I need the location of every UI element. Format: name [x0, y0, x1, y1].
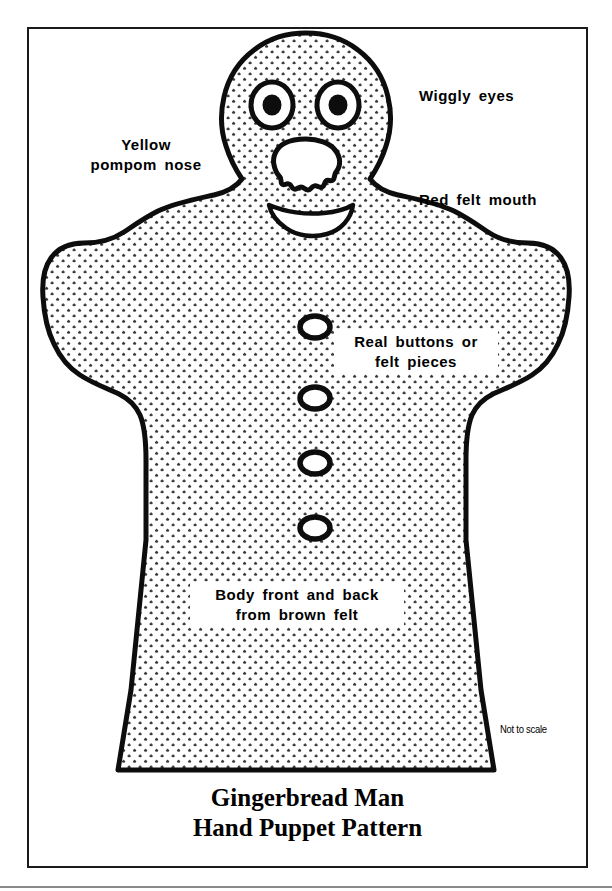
body-shape	[0, 0, 612, 891]
button-2	[300, 387, 330, 409]
title-line-1: Gingerbread Man	[27, 783, 588, 813]
callout-wiggly-eyes: Wiggly eyes	[419, 86, 514, 106]
scan-edge-rule	[0, 886, 612, 888]
pompom-nose	[274, 139, 340, 190]
scale-note: Not to scale	[500, 722, 547, 737]
gingerbread-man-figure	[0, 0, 612, 891]
right-eye	[317, 82, 359, 128]
button-3	[300, 452, 330, 474]
button-1	[300, 316, 330, 338]
button-4	[300, 517, 330, 539]
left-eye	[251, 82, 293, 128]
title-line-2: Hand Puppet Pattern	[27, 813, 588, 843]
callout-body-front-and-back: Body front and back from brown felt	[190, 583, 404, 627]
page-title: Gingerbread Man Hand Puppet Pattern	[27, 783, 588, 842]
callout-red-felt-mouth: Red felt mouth	[419, 190, 537, 210]
callout-yellow-pompom-nose: Yellow pompom nose	[87, 135, 205, 175]
callout-real-buttons-or-felt-pieces: Real buttons or felt pieces	[334, 330, 498, 374]
pattern-page: Wiggly eyes Yellow pompom nose Red felt …	[0, 0, 612, 891]
